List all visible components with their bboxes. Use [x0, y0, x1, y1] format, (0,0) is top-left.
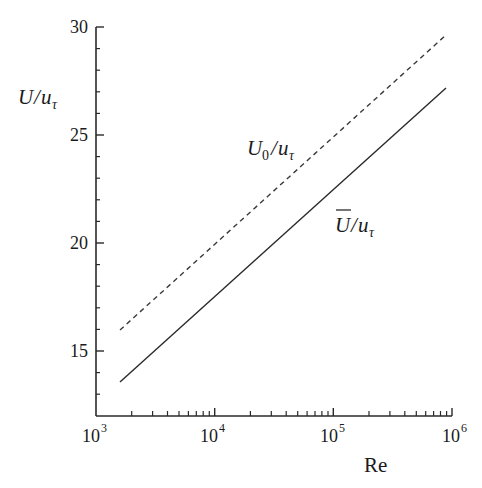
- y-major-ticks: [96, 27, 104, 351]
- y-axis-label: U / u τ: [18, 85, 58, 112]
- chart: 30 25 20 15 10 3 10 4 10 5 10 6 U / u τ …: [0, 0, 482, 488]
- annotation-Ubar: U / u τ: [335, 210, 375, 240]
- series-dashed-U0: [120, 35, 446, 330]
- svg-text:τ: τ: [52, 97, 58, 112]
- x-tick-label-1e5: 10 5: [320, 421, 345, 446]
- svg-text:10: 10: [200, 426, 218, 446]
- x-tick-label-1e4: 10 4: [200, 421, 225, 446]
- y-tick-label-15: 15: [70, 341, 88, 361]
- y-tick-label-25: 25: [70, 125, 88, 145]
- svg-text:u: u: [278, 136, 289, 160]
- y-tick-label-20: 20: [70, 233, 88, 253]
- svg-text:3: 3: [101, 421, 107, 435]
- x-axis-label: Re: [364, 453, 387, 477]
- x-tick-label-1e3: 10 3: [82, 421, 107, 446]
- svg-text:10: 10: [82, 426, 100, 446]
- svg-text:0: 0: [262, 148, 269, 163]
- x-tick-label-1e6: 10 6: [442, 421, 467, 446]
- svg-text:4: 4: [219, 421, 225, 435]
- svg-text:U: U: [335, 213, 352, 237]
- svg-text:U: U: [18, 85, 35, 109]
- series-solid-Ubar: [120, 88, 446, 382]
- svg-text:5: 5: [339, 421, 345, 435]
- svg-text:u: u: [358, 213, 369, 237]
- y-tick-label-30: 30: [70, 17, 88, 37]
- svg-text:τ: τ: [369, 225, 375, 240]
- svg-text:10: 10: [320, 426, 338, 446]
- svg-text:τ: τ: [289, 148, 295, 163]
- svg-text:6: 6: [461, 421, 467, 435]
- annotation-U0: U 0 / u τ: [247, 136, 295, 163]
- svg-text:u: u: [41, 85, 52, 109]
- svg-text:10: 10: [442, 426, 460, 446]
- axes: [96, 27, 452, 416]
